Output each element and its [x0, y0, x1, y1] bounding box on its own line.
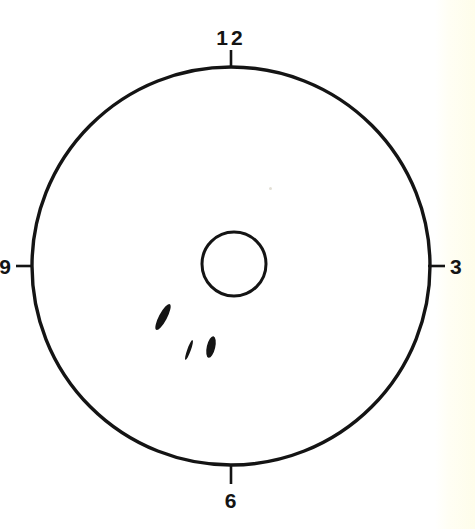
- outer-boundary-circle: [32, 67, 430, 465]
- clock-label-9: 9: [0, 255, 12, 278]
- lesion-mark-small: [204, 335, 217, 358]
- diagram-page: 12 3 6 9: [0, 0, 475, 529]
- clock-face-diagram: 12 3 6 9: [0, 0, 475, 529]
- clock-label-6: 6: [225, 489, 238, 512]
- lesion-mark-thin: [184, 340, 195, 361]
- inner-circle: [202, 232, 266, 296]
- clock-label-3: 3: [450, 255, 463, 278]
- lesion-mark-large: [153, 302, 174, 331]
- clock-label-12: 12: [216, 26, 245, 49]
